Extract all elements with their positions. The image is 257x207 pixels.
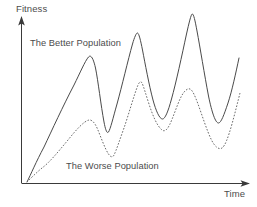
better-population-annotation: The Better Population bbox=[30, 38, 121, 48]
y-axis-label: Fitness bbox=[16, 3, 47, 14]
fitness-over-time-figure: Fitness Time The Better Population The W… bbox=[0, 0, 257, 207]
plot-canvas bbox=[0, 0, 257, 207]
x-axis-label: Time bbox=[224, 188, 245, 199]
worse-population-annotation: The Worse Population bbox=[66, 161, 159, 171]
